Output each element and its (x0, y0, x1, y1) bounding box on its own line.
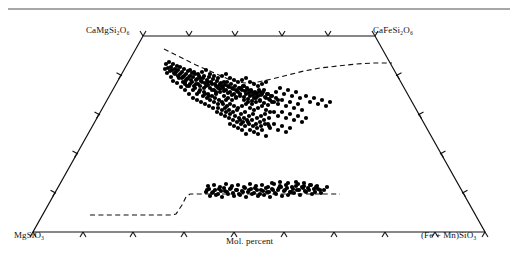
data-point (170, 68, 174, 72)
data-point (211, 106, 215, 110)
data-point (212, 74, 216, 78)
data-point (276, 114, 280, 118)
data-point (220, 74, 224, 78)
data-point (260, 183, 264, 187)
data-point (286, 88, 290, 92)
data-point (227, 116, 231, 120)
data-point (300, 108, 304, 112)
data-point (171, 79, 175, 83)
data-point (255, 116, 259, 120)
data-point (255, 126, 259, 130)
tick-bottom-5a (281, 232, 284, 237)
data-point (185, 84, 189, 88)
data-point (241, 190, 245, 194)
data-point (263, 122, 267, 126)
data-point (179, 85, 183, 89)
data-point (254, 100, 258, 104)
data-point (248, 106, 252, 110)
data-point (242, 84, 246, 88)
data-point (214, 193, 218, 197)
data-point (191, 96, 195, 100)
data-point (192, 70, 196, 74)
data-point (211, 190, 215, 194)
data-point (252, 130, 256, 134)
data-point (292, 106, 296, 110)
tick-bottom-2b (133, 232, 136, 237)
data-point (296, 114, 300, 118)
data-point (204, 84, 208, 88)
data-point (182, 67, 186, 71)
data-point (212, 183, 216, 187)
tick-top-2a (232, 31, 235, 36)
tick-top-0a (140, 31, 143, 36)
data-point (270, 181, 274, 185)
data-point (223, 189, 227, 193)
data-point (283, 188, 287, 192)
data-point (205, 96, 209, 100)
tick-bottom-7b (385, 232, 388, 237)
data-point (250, 118, 254, 122)
data-point (216, 106, 220, 110)
data-point (250, 90, 254, 94)
data-point (220, 195, 224, 199)
data-point (212, 100, 216, 104)
data-point (260, 128, 264, 132)
data-point (217, 98, 221, 102)
data-point (236, 126, 240, 130)
data-point (225, 104, 229, 108)
data-point (268, 98, 272, 102)
tick-bottom-6a (331, 232, 334, 237)
data-point (230, 86, 234, 90)
data-point (278, 180, 282, 184)
data-point (217, 187, 221, 191)
data-point (262, 88, 266, 92)
tick-bottom-1b (83, 232, 86, 237)
data-point (208, 86, 212, 90)
data-point (233, 114, 237, 118)
data-point (232, 194, 236, 198)
data-point (286, 181, 290, 185)
data-point (280, 110, 284, 114)
data-point (207, 104, 211, 108)
data-point (272, 110, 276, 114)
data-point (226, 192, 230, 196)
data-point (256, 194, 260, 198)
data-point (264, 108, 268, 112)
data-point (240, 78, 244, 82)
data-point (247, 188, 251, 192)
data-point (212, 88, 216, 92)
data-point (268, 110, 272, 114)
data-point (239, 112, 243, 116)
data-point (191, 88, 195, 92)
data-point (198, 76, 202, 80)
data-point (232, 104, 236, 108)
data-point (259, 188, 263, 192)
data-point (256, 94, 260, 98)
data-point (222, 94, 226, 98)
data-point (215, 110, 219, 114)
data-point (248, 94, 252, 98)
point-series-pigeonite-orthopyroxene-band (204, 180, 329, 199)
data-point (244, 92, 248, 96)
data-point (220, 108, 224, 112)
tick-bottom-6b (334, 232, 337, 237)
data-point (253, 186, 257, 190)
data-point (199, 100, 203, 104)
pyroxene-quadrilateral-figure: CaMgSi₂O₆ CaFeSi₂O₆ MgSiO₃ (Fe + Mn)SiO₃… (0, 0, 518, 260)
tick-top-4b (328, 31, 331, 36)
tick-top-4a (325, 31, 328, 36)
data-point (201, 94, 205, 98)
tick-top-3b (282, 31, 285, 36)
data-point (221, 102, 225, 106)
data-point (216, 76, 220, 80)
data-point (264, 80, 268, 84)
tick-bottom-3a (181, 232, 184, 237)
data-point (187, 92, 191, 96)
data-point (298, 193, 302, 197)
data-point (234, 96, 238, 100)
data-point (205, 188, 209, 192)
data-point (229, 186, 233, 190)
data-point (216, 102, 220, 106)
data-point (251, 112, 255, 116)
data-point (250, 102, 254, 106)
